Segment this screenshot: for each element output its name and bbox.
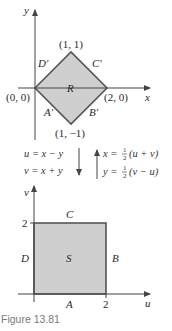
edge-a-prime-label: A′ — [43, 106, 54, 118]
inverse-x-equation: x = — [102, 148, 117, 159]
v-axis-label: v — [24, 186, 29, 198]
bottom-plot: v u 2 2 S C D B A — [18, 186, 151, 310]
u-tick-label: 2 — [103, 298, 109, 310]
inverse-y-frac-num: 1 — [123, 164, 127, 172]
forward-v-equation: v = x + y — [24, 165, 63, 176]
forward-u-equation: u = x − y — [24, 148, 64, 159]
edge-b-prime-label: B′ — [89, 106, 99, 118]
x-axis-label: x — [144, 91, 150, 103]
inverse-x-frac-num: 1 — [123, 146, 127, 154]
u-axis-label: u — [145, 297, 151, 309]
transformation-equations: u = x − y v = x + y x = 1 2 (u + v) y = … — [24, 146, 159, 180]
edge-a-label: A — [65, 298, 73, 310]
inverse-y-equation: y = — [102, 166, 117, 177]
figure-canvas: y x R (0, 0) (1, 1) (2, 0) (1, −1) D′ C′… — [0, 0, 172, 331]
inverse-y-frac-den: 2 — [123, 172, 127, 180]
vertex-right-label: (2, 0) — [104, 91, 128, 104]
top-plot: y x R (0, 0) (1, 1) (2, 0) (1, −1) D′ C′… — [6, 4, 150, 140]
edge-d-label: D — [20, 252, 29, 264]
vertex-top-label: (1, 1) — [59, 38, 83, 51]
edge-d-prime-label: D′ — [37, 57, 49, 69]
vertex-origin-label: (0, 0) — [6, 91, 30, 104]
inverse-y-rhs: (v − u) — [129, 166, 159, 178]
v-tick-label: 2 — [22, 217, 28, 229]
edge-c-prime-label: C′ — [92, 57, 102, 69]
inverse-x-rhs: (u + v) — [129, 148, 159, 160]
edge-b-label: B — [112, 252, 119, 264]
edge-c-label: C — [66, 208, 74, 220]
vertex-bottom-label: (1, −1) — [55, 127, 85, 140]
region-r-label: R — [66, 82, 74, 94]
y-axis-label: y — [23, 4, 29, 16]
figure-caption: Figure 13.81 — [1, 313, 60, 325]
inverse-x-frac-den: 2 — [123, 154, 127, 162]
region-s-label: S — [66, 252, 72, 264]
